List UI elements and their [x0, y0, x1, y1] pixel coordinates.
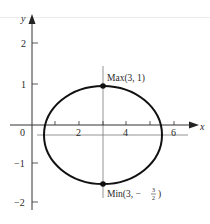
y-ticks [32, 43, 38, 202]
y-tick-label-1: 1 [21, 79, 26, 90]
min-label-prefix: Min(3, − [107, 189, 141, 200]
origin-label: 0 [20, 127, 25, 138]
min-point [100, 181, 106, 187]
x-tick-label-4: 4 [123, 127, 128, 138]
max-point-label: Max(3, 1) [107, 73, 145, 84]
x-axis-label: x [199, 121, 205, 132]
x-tick-label-2: 2 [76, 127, 81, 138]
ellipse-plot: x y 2 4 6 0 2 1 −1 −2 Max(3, 1) Min(3, −… [0, 0, 210, 224]
y-tick-label-neg1: −1 [14, 158, 25, 169]
min-label-frac-den: 2 [152, 195, 155, 201]
y-axis-arrow-icon [29, 14, 36, 24]
x-tick-label-6: 6 [171, 127, 176, 138]
x-axis-arrow-icon [189, 122, 199, 129]
y-tick-label-2: 2 [21, 38, 26, 49]
min-label-suffix: ) [158, 189, 161, 200]
y-tick-label-neg2: −2 [14, 197, 25, 208]
min-label-frac-num: 3 [152, 187, 155, 193]
min-point-label: Min(3, − [107, 189, 141, 200]
x-ticks [55, 121, 174, 125]
y-axis-label: y [20, 13, 26, 24]
max-point [100, 83, 106, 89]
